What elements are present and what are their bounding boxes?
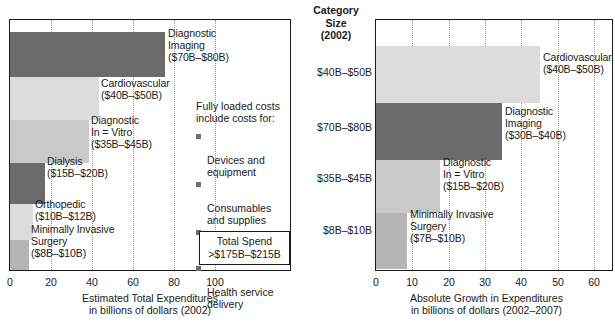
figure-root: Diagnostic Imaging ($70B–$80B) Cardiovas… [0, 0, 615, 328]
xtick-left-80: 80 [154, 276, 194, 288]
bar-minimally-invasive-surgery [10, 240, 29, 271]
right-axis-title: Absolute Growth in Expenditures in billi… [360, 292, 613, 317]
left-axis-title: Estimated Total Expenditures in billions… [9, 292, 291, 317]
bullet-square-icon [196, 182, 201, 187]
legend-item-label: Devices and equipment [207, 154, 265, 178]
xtick-right-20: 20 [429, 276, 469, 288]
xtick-left-100: 100 [195, 276, 235, 288]
xtick-right-40: 40 [501, 276, 541, 288]
bar-label-cardiovascular: Cardiovascular ($40B–$50B) [101, 78, 221, 102]
xtick-right-10: 10 [392, 276, 432, 288]
bullet-square-icon [196, 266, 201, 271]
legend-heading: Fully loaded costs include costs for: [196, 100, 292, 124]
category-size-label-cardiovascular: $40B–$50B [300, 66, 372, 78]
xtick-left-20: 20 [31, 276, 71, 288]
bar-label-diagnostic-in-vitro: Diagnostic In = Vitro ($35B–$45B) [91, 115, 201, 150]
total-spend-box: Total Spend >$175B–$215B [199, 231, 290, 265]
bar-label-minimally-invasive-surgery: Minimally Invasive Surgery ($7B–$10B) [410, 209, 515, 244]
bar-label-orthopedic: Orthopedic ($10B–$12B) [35, 199, 145, 223]
legend-item-consumables: Consumables and supplies [196, 178, 292, 226]
bar-diagnostic-imaging [10, 32, 165, 77]
bar-cardiovascular [376, 46, 540, 103]
bar-diagnostic-in-vitro [376, 160, 440, 213]
bar-label-diagnostic-imaging: Diagnostic Imaging ($70B–$80B) [168, 28, 288, 63]
xtick-right-60: 60 [574, 276, 614, 288]
xtick-left-0: 0 [0, 276, 30, 288]
bar-label-diagnostic-in-vitro: Diagnostic In = Vitro ($15B–$20B) [443, 157, 529, 192]
legend-item-label: Consumables and supplies [207, 202, 271, 226]
legend-item-devices: Devices and equipment [196, 130, 292, 178]
bar-label-cardiovascular: Cardiovascular ($40B–$50B) [543, 52, 615, 76]
left-chart-panel: Diagnostic Imaging ($70B–$80B) Cardiovas… [0, 0, 300, 328]
bullet-square-icon [196, 134, 201, 139]
xtick-left-40: 40 [72, 276, 112, 288]
bar-minimally-invasive-surgery [376, 213, 407, 269]
bar-label-minimally-invasive-surgery: Minimally Invasive Surgery ($8B–$10B) [31, 224, 161, 259]
bar-cardiovascular [10, 77, 99, 120]
category-size-label-diagnostic-imaging: $70B–$80B [300, 121, 372, 133]
category-size-header: Category Size (2002) [300, 4, 372, 42]
category-size-label-minimally-invasive-surgery: $8B–$10B [300, 224, 372, 236]
category-size-label-diagnostic-in-vitro: $35B–$45B [300, 172, 372, 184]
right-chart-panel: Category Size (2002) $40B–$50B $70B–$80B… [300, 0, 615, 328]
bar-diagnostic-imaging [376, 103, 502, 160]
xtick-right-50: 50 [538, 276, 578, 288]
xtick-right-30: 30 [465, 276, 505, 288]
bar-orthopedic [10, 204, 33, 240]
bar-label-diagnostic-imaging: Diagnostic Imaging ($30B–$40B) [505, 106, 585, 141]
xtick-left-60: 60 [113, 276, 153, 288]
bar-label-dialysis: Dialysis ($15B–$20B) [47, 156, 157, 180]
xtick-right-0: 0 [356, 276, 396, 288]
